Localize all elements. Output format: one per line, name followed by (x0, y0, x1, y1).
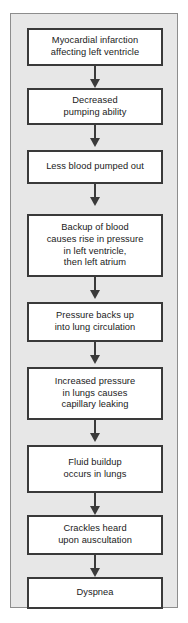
flow-arrow-down-1 (27, 66, 163, 88)
flowchart-panel: Myocardial infarction affecting left ven… (10, 13, 178, 608)
flow-arrow-down-2 (27, 125, 163, 150)
flowchart-node-stack: Myocardial infarction affecting left ven… (27, 28, 163, 609)
flow-node-myocardial-infarction: Myocardial infarction affecting left ven… (27, 28, 163, 66)
flow-node-label: Less blood pumped out (46, 161, 144, 173)
flow-node-dyspnea: Dyspnea (27, 577, 163, 609)
down-arrow-icon (90, 355, 100, 364)
flow-arrow-down-8 (27, 555, 163, 577)
flow-node-label: Dyspnea (76, 587, 113, 599)
down-arrow-icon (90, 138, 100, 147)
flow-node-label: Crackles heard upon auscultation (58, 523, 132, 546)
flow-node-pressure-backs-up: Pressure backs up into lung circulation (27, 302, 163, 342)
down-arrow-icon (90, 197, 100, 206)
down-arrow-icon (90, 506, 100, 515)
flow-node-label: Pressure backs up into lung circulation (55, 310, 136, 333)
down-arrow-icon (90, 290, 100, 299)
flow-arrow-down-4 (27, 277, 163, 302)
flow-arrow-down-7 (27, 493, 163, 515)
flow-node-label: Decreased pumping ability (64, 95, 127, 118)
flow-node-label: Fluid buildup occurs in lungs (64, 457, 127, 480)
flow-node-label: Backup of blood causes rise in pressure … (47, 222, 144, 268)
flow-node-label: Increased pressure in lungs causes capil… (55, 376, 135, 411)
down-arrow-icon (90, 79, 100, 88)
flow-arrow-down-6 (27, 420, 163, 445)
flow-arrow-down-3 (27, 184, 163, 214)
flow-node-backup-of-blood: Backup of blood causes rise in pressure … (27, 214, 163, 277)
down-arrow-icon (90, 568, 100, 577)
flow-node-fluid-buildup: Fluid buildup occurs in lungs (27, 445, 163, 493)
flow-node-less-blood-pumped-out: Less blood pumped out (27, 150, 163, 184)
flow-node-decreased-pumping-ability: Decreased pumping ability (27, 88, 163, 125)
flow-node-increased-pressure-in-lungs: Increased pressure in lungs causes capil… (27, 367, 163, 420)
down-arrow-icon (90, 433, 100, 442)
flow-arrow-down-5 (27, 342, 163, 367)
flow-node-label: Myocardial infarction affecting left ven… (51, 35, 139, 58)
flow-node-crackles-heard: Crackles heard upon auscultation (27, 515, 163, 555)
